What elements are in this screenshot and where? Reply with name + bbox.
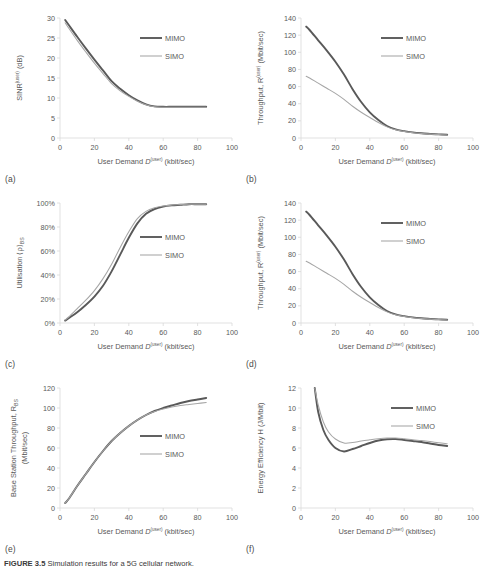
y-tick-label: 40: [288, 284, 296, 293]
panel-letter-f: (f): [246, 544, 254, 554]
y-tick-label: 0: [292, 504, 296, 513]
x-axis-title-main: User Demand: [338, 342, 386, 351]
plot-area-b: 020406080100120140020406080100MIMOSIMOUs…: [241, 4, 482, 172]
y-axis-title-unit: (Mbit/sec): [256, 31, 265, 66]
x-axis-title: User Demand D(user) (kbit/sec): [97, 157, 194, 166]
plot-area-a: 051015202530020406080100MIMOSIMOUser Dem…: [0, 4, 241, 172]
x-tick-label: 40: [125, 328, 133, 337]
y-tick-label: 120: [284, 216, 296, 225]
y-tick-label: 2: [292, 484, 296, 493]
y-tick-label: 100: [284, 48, 296, 57]
x-tick-label: 80: [194, 328, 202, 337]
legend-label-simo: SIMO: [406, 237, 425, 246]
chart-panel-a: 051015202530020406080100MIMOSIMOUser Dem…: [0, 4, 241, 190]
y-tick-label: 40: [288, 99, 296, 108]
figure-caption-label: FIGURE 3.5: [4, 559, 45, 568]
x-axis-title-sup: (user): [391, 342, 403, 347]
chart-panel-c: 0%20%40%60%80%100%020406080100MIMOSIMOUs…: [0, 189, 241, 375]
x-tick-label: 0: [58, 513, 62, 522]
y-tick-label: 0: [51, 134, 55, 143]
y-tick-label: 12: [288, 384, 296, 393]
y-tick-label: 20: [47, 484, 55, 493]
x-tick-label: 80: [435, 513, 443, 522]
y-tick-label: 20%: [41, 295, 56, 304]
x-tick-label: 60: [159, 513, 167, 522]
chart-panel-b: 020406080100120140020406080100MIMOSIMOUs…: [241, 4, 482, 190]
y-axis-title: Throughput, R(user) (Mbit/sec): [256, 216, 265, 310]
y-tick-label: 100: [43, 404, 55, 413]
x-tick-label: 80: [194, 513, 202, 522]
y-axis-title: SINR(user) (dB): [15, 55, 24, 101]
legend-label-simo: SIMO: [165, 251, 184, 260]
x-axis-title-sup: (user): [150, 527, 162, 532]
y-tick-label: 100: [284, 233, 296, 242]
y-tick-label: 20: [288, 301, 296, 310]
legend-label-mimo: MIMO: [165, 233, 185, 242]
y-tick-label: 120: [284, 31, 296, 40]
series-line-simo: [65, 403, 206, 504]
x-axis-title-unit: (kbit/sec): [403, 157, 435, 166]
y-tick-label: 10: [288, 404, 296, 413]
x-axis-title-main: User Demand: [97, 342, 145, 351]
x-tick-label: 100: [226, 513, 238, 522]
y-tick-label: 60%: [41, 247, 56, 256]
y-tick-label: 5: [51, 114, 55, 123]
x-tick-label: 20: [331, 513, 339, 522]
y-axis-title-main: Utilisation ⟨ρ⟩: [15, 244, 24, 288]
x-axis-title-unit: (kbit/sec): [403, 342, 435, 351]
x-tick-label: 100: [467, 143, 479, 152]
y-tick-label: 6: [292, 444, 296, 453]
legend-label-mimo: MIMO: [165, 432, 185, 441]
x-tick-label: 0: [58, 143, 62, 152]
panel-letter-d: (d): [246, 359, 257, 369]
plot-area-f: 024681012020406080100MIMOSIMOUser Demand…: [241, 374, 482, 542]
x-tick-label: 60: [159, 143, 167, 152]
x-axis-title-unit: (kbit/sec): [162, 527, 194, 536]
y-tick-label: 20: [288, 116, 296, 125]
chart-panel-d: 020406080100120140020406080100MIMOSIMOUs…: [241, 189, 482, 375]
legend-label-mimo: MIMO: [416, 404, 436, 413]
y-tick-label: 8: [292, 424, 296, 433]
y-tick-label: 140: [284, 14, 296, 23]
legend-label-mimo: MIMO: [406, 34, 426, 43]
y-tick-label: 15: [47, 74, 55, 83]
y-axis-title-main: Throughput, R: [256, 263, 265, 310]
x-axis-title-unit: (kbit/sec): [403, 527, 435, 536]
y-axis-title-sub: BS: [19, 237, 25, 244]
figure-caption: FIGURE 3.5 Simulation results for a 5G c…: [4, 559, 474, 568]
y-tick-label: 60: [288, 267, 296, 276]
x-tick-label: 40: [125, 143, 133, 152]
y-tick-label: 80: [288, 65, 296, 74]
series-line-mimo: [315, 388, 447, 452]
x-axis-title-main: User Demand: [97, 527, 145, 536]
panel-letter-a: (a): [5, 174, 16, 184]
plot-area-d: 020406080100120140020406080100MIMOSIMOUs…: [241, 189, 482, 357]
y-axis-title-line2: (Mbit/sec): [20, 432, 29, 464]
y-axis-title-unit: (dB): [15, 55, 24, 71]
x-tick-label: 80: [194, 143, 202, 152]
x-tick-label: 20: [90, 143, 98, 152]
x-tick-label: 100: [467, 513, 479, 522]
x-tick-label: 40: [366, 328, 374, 337]
x-axis-title-unit: (kbit/sec): [162, 157, 194, 166]
y-tick-label: 0: [51, 504, 55, 513]
y-tick-label: 120: [43, 384, 55, 393]
series-line-simo: [65, 204, 206, 320]
x-axis-title-sup: (user): [150, 342, 162, 347]
y-tick-label: 80: [47, 424, 55, 433]
x-axis-title-sup: (user): [150, 157, 162, 162]
y-axis-title: Base Station Throughput, RBS(Mbit/sec): [9, 398, 29, 497]
y-tick-label: 80%: [41, 223, 56, 232]
legend-label-mimo: MIMO: [406, 219, 426, 228]
x-axis-title: User Demand D(user) (kbit/sec): [97, 527, 194, 536]
x-tick-label: 20: [331, 328, 339, 337]
y-tick-label: 10: [47, 94, 55, 103]
y-axis-title-sup: (user): [256, 250, 261, 262]
series-line-simo: [306, 76, 447, 135]
x-tick-label: 20: [90, 513, 98, 522]
x-tick-label: 100: [226, 328, 238, 337]
series-line-mimo: [65, 398, 206, 503]
y-tick-label: 140: [284, 199, 296, 208]
y-axis-title-main: Energy Efficiency H (J/Mbit): [256, 402, 265, 493]
y-axis-title-main: SINR: [15, 83, 24, 101]
